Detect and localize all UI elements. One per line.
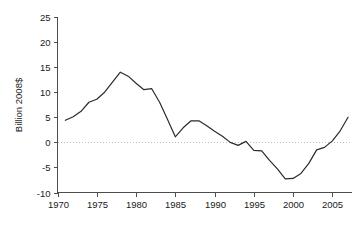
y-tick-label: -10	[37, 188, 51, 199]
x-axis-tick-marks	[59, 193, 333, 197]
x-axis-tick-labels: 19701975198019851990199520002005	[48, 199, 343, 210]
y-axis-tick-labels: -10-50510152025	[37, 12, 51, 199]
y-axis-title: Billion 2008$	[13, 77, 24, 132]
y-tick-label: 15	[40, 62, 51, 73]
x-tick-label: 1970	[48, 199, 69, 210]
x-tick-label: 1985	[165, 199, 186, 210]
x-tick-label: 1980	[126, 199, 147, 210]
y-tick-label: 5	[45, 112, 50, 123]
y-tick-label: 25	[40, 12, 51, 23]
chart-figure: -10-50510152025 197019751980198519901995…	[0, 0, 362, 227]
x-tick-label: 1990	[205, 199, 226, 210]
x-tick-label: 2005	[322, 199, 343, 210]
data-series-line	[65, 72, 348, 179]
y-tick-label: -5	[42, 162, 50, 173]
x-tick-label: 1975	[87, 199, 108, 210]
x-tick-label: 1995	[244, 199, 265, 210]
y-tick-label: 20	[40, 37, 51, 48]
chart-plot-svg: -10-50510152025 197019751980198519901995…	[0, 0, 362, 227]
y-tick-label: 0	[45, 137, 50, 148]
y-tick-label: 10	[40, 87, 51, 98]
x-tick-label: 2000	[283, 199, 304, 210]
y-axis-tick-marks	[54, 18, 58, 194]
